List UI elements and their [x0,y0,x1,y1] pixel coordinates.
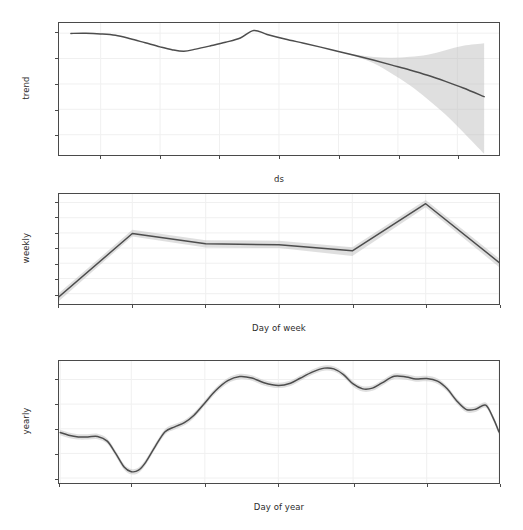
trend-plot-area [58,22,500,156]
yearly-y-axis-label: yearly [21,401,31,441]
weekly-panel: weekly Day of week [0,185,523,355]
yearly-y-tick-mark [55,379,58,380]
trend-panel: trend ds [0,0,523,185]
weekly-plot-area [58,193,500,305]
trend-y-tick-mark [55,58,58,59]
weekly-x-tick-mark [500,305,501,308]
trend-x-axis-label: ds [219,174,339,184]
yearly-x-tick-mark [354,484,355,487]
weekly-chart-svg [59,194,499,304]
trend-x-tick-mark [399,156,400,159]
trend-x-tick-mark [339,156,340,159]
trend-y-tick-mark [55,110,58,111]
yearly-plot-area [58,360,500,484]
trend-x-tick-mark [219,156,220,159]
trend-y-axis-label: trend [21,68,31,108]
trend-x-tick-mark [458,156,459,159]
weekly-x-tick-mark [58,305,59,308]
yearly-y-tick-mark [55,479,58,480]
weekly-y-tick-mark [55,217,58,218]
weekly-x-tick-mark [279,305,280,308]
trend-y-tick-mark [55,84,58,85]
yearly-x-tick-mark [427,484,428,487]
trend-y-tick-mark [55,135,58,136]
prophet-components-figure: trend ds weekly Day of week yearly Day o… [0,0,523,530]
weekly-x-tick-mark [353,305,354,308]
trend-x-tick-mark [279,156,280,159]
yearly-x-tick-mark [131,484,132,487]
weekly-y-tick-mark [55,233,58,234]
yearly-x-axis-label: Day of year [219,502,339,512]
yearly-y-tick-mark [55,454,58,455]
trend-chart-svg [59,23,499,155]
trend-x-tick-mark [100,156,101,159]
yearly-panel: yearly Day of year [0,355,523,530]
weekly-x-tick-mark [205,305,206,308]
yearly-y-tick-mark [55,429,58,430]
weekly-y-tick-mark [55,295,58,296]
yearly-x-tick-mark [59,484,60,487]
yearly-x-tick-mark [205,484,206,487]
yearly-y-tick-mark [55,404,58,405]
weekly-y-tick-mark [55,279,58,280]
trend-y-tick-mark [55,32,58,33]
weekly-y-tick-mark [55,264,58,265]
weekly-y-tick-mark [55,202,58,203]
weekly-y-tick-mark [55,248,58,249]
weekly-x-tick-mark [426,305,427,308]
trend-x-tick-mark [160,156,161,159]
weekly-x-tick-mark [132,305,133,308]
yearly-chart-svg [59,361,499,483]
yearly-x-tick-mark [500,484,501,487]
weekly-y-axis-label: weekly [21,228,31,268]
yearly-x-tick-mark [278,484,279,487]
weekly-x-axis-label: Day of week [219,323,339,333]
